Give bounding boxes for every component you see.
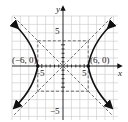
y-tick-label-pos5: 5	[55, 26, 60, 36]
x-tick-label-neg5: −5	[35, 68, 45, 78]
hyperbola-graph: y x (−6, 0) (6, 0) −5 5 5 −5	[0, 0, 128, 122]
left-vertex-label: (−6, 0)	[12, 55, 37, 65]
y-tick-label-neg5: −5	[50, 106, 60, 116]
right-vertex-label: (6, 0)	[90, 55, 110, 65]
y-axis-label: y	[55, 4, 60, 14]
x-tick-label-pos5: 5	[82, 68, 87, 78]
x-axis-label: x	[117, 68, 122, 78]
